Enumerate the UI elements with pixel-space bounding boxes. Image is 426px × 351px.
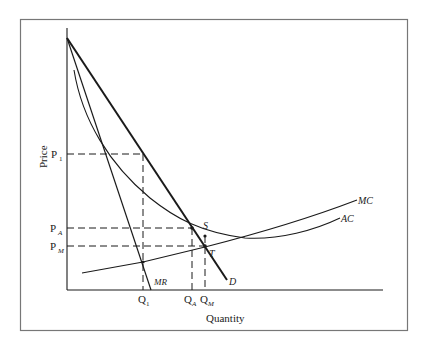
x-axis-label: Quantity bbox=[206, 312, 245, 324]
svg-text:P: P bbox=[50, 222, 56, 234]
point-t-marker bbox=[203, 244, 207, 248]
diagram-canvas: Price Quantity P 1 P A P M Q 1 Q A Q M D… bbox=[0, 0, 426, 351]
point-s-label: S bbox=[203, 220, 208, 231]
point-s-ac-marker bbox=[203, 234, 206, 237]
svg-text:Q: Q bbox=[138, 293, 146, 305]
guide-lines bbox=[67, 154, 205, 290]
svg-text:M: M bbox=[57, 247, 65, 255]
svg-text:Q: Q bbox=[200, 293, 208, 305]
y-axis-label: Price bbox=[37, 145, 49, 168]
average-cost-label: AC bbox=[340, 213, 354, 224]
svg-text:P: P bbox=[50, 240, 56, 252]
svg-text:M: M bbox=[207, 300, 215, 308]
quantity-label-q1: Q 1 bbox=[138, 293, 150, 308]
quantity-label-qm: Q M bbox=[200, 293, 215, 308]
marginal-revenue-curve bbox=[67, 38, 151, 290]
svg-text:1: 1 bbox=[59, 155, 63, 163]
marginal-cost-curve bbox=[82, 200, 357, 273]
marginal-cost-label: MC bbox=[357, 195, 373, 206]
price-label-pa: P A bbox=[50, 222, 63, 237]
price-label-p1: P 1 bbox=[51, 148, 63, 163]
demand-label: D bbox=[228, 276, 237, 287]
figure-frame bbox=[21, 20, 408, 331]
mr-mc-intersection-marker bbox=[141, 260, 144, 263]
price-label-pm: P M bbox=[50, 240, 65, 255]
svg-text:1: 1 bbox=[146, 300, 150, 308]
quantity-label-qa: Q A bbox=[184, 293, 197, 308]
point-t-label: T bbox=[209, 248, 216, 259]
svg-text:P: P bbox=[51, 148, 57, 160]
marginal-revenue-label: MR bbox=[153, 277, 167, 287]
svg-text:A: A bbox=[191, 300, 197, 308]
point-s-marker bbox=[190, 226, 194, 230]
svg-text:Q: Q bbox=[184, 293, 192, 305]
svg-text:A: A bbox=[57, 229, 63, 237]
demand-curve bbox=[67, 38, 227, 280]
